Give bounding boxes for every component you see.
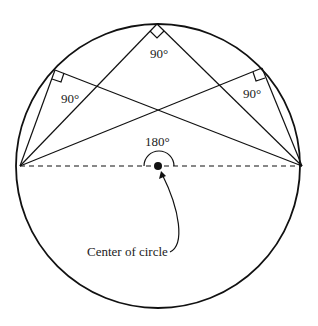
center-point [154,162,162,170]
angle-label-right: 90° [243,86,261,101]
center-arrow [162,174,179,252]
arrow-head-icon [159,171,166,179]
angle-label-left: 90° [61,91,79,106]
center-label: Center of circle [87,244,168,259]
circle-diagram: 90° 90° 90° 180° Center of circle [0,0,318,326]
central-angle-label: 180° [145,134,170,149]
angle-label-top: 90° [150,46,168,61]
